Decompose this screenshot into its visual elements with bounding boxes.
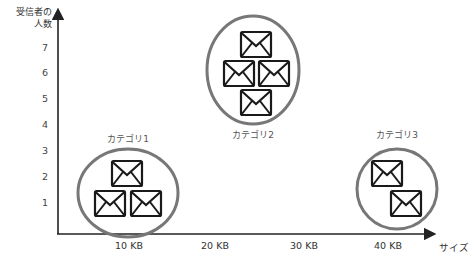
envelope-icon: [241, 90, 271, 115]
x-axis-label: サイズ: [439, 240, 469, 254]
y-axis-label-line1: 受信者の: [0, 6, 52, 18]
category-2-group: [207, 16, 299, 124]
envelope-icon: [391, 191, 421, 216]
x-tick-10kb: 10 KB: [104, 240, 154, 251]
envelope-icon: [112, 161, 142, 186]
x-tick-40kb: 40 KB: [363, 240, 413, 251]
y-tick-7: 7: [28, 42, 48, 53]
y-axis-label: 受信者の 人数: [0, 6, 52, 30]
y-tick-3: 3: [28, 145, 48, 156]
y-tick-6: 6: [28, 67, 48, 78]
category-1-label: カテゴリ1: [88, 132, 168, 145]
envelope-icon: [95, 191, 125, 216]
category-1-group: [78, 149, 178, 237]
category-3-label: カテゴリ3: [357, 128, 437, 141]
envelope-icon: [131, 191, 161, 216]
envelope-icon: [259, 61, 289, 86]
y-tick-5: 5: [28, 93, 48, 104]
y-tick-1: 1: [28, 197, 48, 208]
category-3-group: [357, 149, 437, 229]
y-axis-label-line2: 人数: [0, 18, 52, 30]
envelope-icon: [372, 161, 402, 186]
envelope-icon: [224, 61, 254, 86]
x-tick-30kb: 30 KB: [279, 240, 329, 251]
envelope-icon: [241, 32, 271, 57]
y-tick-4: 4: [28, 119, 48, 130]
category-2-label: カテゴリ2: [213, 128, 293, 141]
x-tick-20kb: 20 KB: [190, 240, 240, 251]
y-tick-2: 2: [28, 171, 48, 182]
